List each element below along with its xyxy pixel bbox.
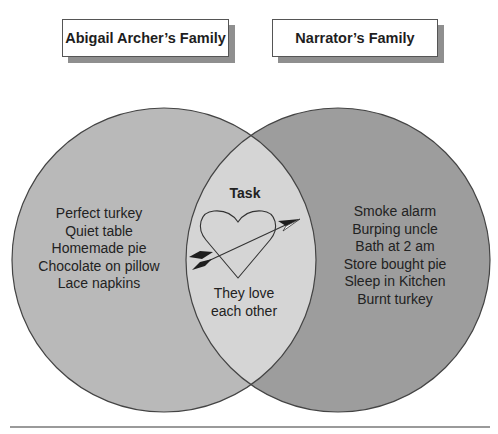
list-item: Homemade pie <box>24 240 174 258</box>
list-item: each other <box>194 303 294 321</box>
bottom-divider <box>10 426 490 428</box>
intersection-title: Task <box>205 185 285 201</box>
list-item: Burping uncle <box>320 221 470 239</box>
list-item: Lace napkins <box>24 275 174 293</box>
list-item: Quiet table <box>24 223 174 241</box>
list-item: Perfect turkey <box>24 205 174 223</box>
list-item: Store bought pie <box>320 256 470 274</box>
list-item: Bath at 2 am <box>320 238 470 256</box>
list-item: Chocolate on pillow <box>24 258 174 276</box>
list-item: Smoke alarm <box>320 203 470 221</box>
list-item: They love <box>194 285 294 303</box>
list-item: Burnt turkey <box>320 291 470 309</box>
left-only-list: Perfect turkey Quiet table Homemade pie … <box>24 205 174 293</box>
intersection-list: They love each other <box>194 285 294 320</box>
right-only-list: Smoke alarm Burping uncle Bath at 2 am S… <box>320 203 470 308</box>
list-item: Sleep in Kitchen <box>320 273 470 291</box>
